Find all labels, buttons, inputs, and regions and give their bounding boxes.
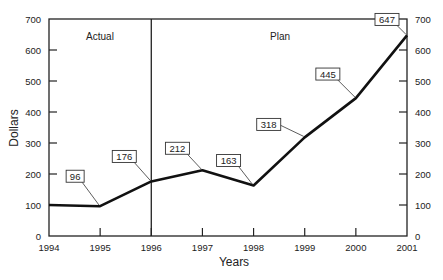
x-tick-label: 1997	[192, 242, 213, 253]
series-line	[49, 35, 407, 206]
region-label-actual: Actual	[86, 31, 114, 42]
x-tick-label: 2001	[396, 242, 417, 253]
y-tick-label-right: 100	[415, 200, 431, 211]
x-tick-label: 1999	[294, 242, 315, 253]
data-label: 445	[320, 69, 336, 80]
y-axis-title: Dollars	[7, 109, 21, 146]
data-label: 163	[221, 155, 237, 166]
plot-frame	[49, 19, 407, 236]
y-tick-label-left: 500	[25, 76, 41, 87]
x-tick-label: 1998	[243, 242, 264, 253]
data-label: 647	[379, 14, 395, 25]
y-tick-label-left: 600	[25, 45, 41, 56]
data-label: 176	[116, 151, 132, 162]
y-tick-label-left: 300	[25, 138, 41, 149]
y-tick-label-left: 100	[25, 200, 41, 211]
y-tick-label-right: 300	[415, 138, 431, 149]
y-tick-label-right: 700	[415, 14, 431, 25]
y-tick-label-left: 0	[36, 231, 41, 242]
x-tick-label: 1995	[90, 242, 111, 253]
y-tick-label-right: 0	[415, 231, 420, 242]
y-tick-label-right: 600	[415, 45, 431, 56]
region-label-plan: Plan	[270, 31, 290, 42]
data-label: 212	[169, 143, 185, 154]
data-label: 318	[261, 119, 277, 130]
y-tick-label-right: 200	[415, 169, 431, 180]
x-tick-label: 1996	[141, 242, 162, 253]
y-tick-label-left: 200	[25, 169, 41, 180]
x-axis-title: Years	[219, 255, 249, 269]
line-chart: 0010010020020030030040040050050060060070…	[0, 0, 443, 280]
data-label: 96	[70, 171, 81, 182]
y-tick-label-right: 500	[415, 76, 431, 87]
y-tick-label-left: 700	[25, 14, 41, 25]
y-tick-label-right: 400	[415, 107, 431, 118]
x-tick-label: 1994	[38, 242, 59, 253]
y-tick-label-left: 400	[25, 107, 41, 118]
x-tick-label: 2000	[345, 242, 366, 253]
